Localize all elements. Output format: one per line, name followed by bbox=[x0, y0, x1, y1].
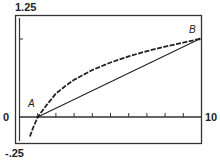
point-b-marker bbox=[198, 38, 200, 40]
log-curve bbox=[30, 39, 200, 137]
point-a-marker bbox=[37, 116, 39, 118]
secant-line-ab bbox=[38, 39, 200, 117]
plot-frame bbox=[16, 16, 202, 144]
plot-area bbox=[0, 0, 220, 162]
